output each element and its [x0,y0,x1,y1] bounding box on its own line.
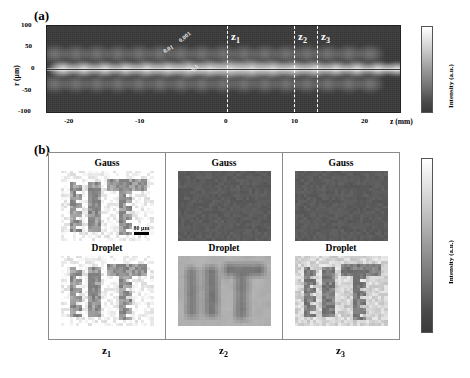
z1-gauss-image: 80 µm [61,171,154,241]
z2-gauss-image [178,171,271,241]
z1-droplet-caption: Droplet [92,242,123,254]
z1-droplet-image [61,256,154,326]
z2-droplet-caption: Droplet [209,242,240,254]
z1-marker-line [227,26,228,112]
z3-marker-line [317,26,318,112]
y-tick-4: -100 [18,107,31,115]
panel-a-colorbar-title: Intensity (a.u.) [447,64,455,108]
panel-a-colorbar [421,26,433,113]
z1-bottom-sub: 1 [107,350,111,359]
panel-b-colorbar [421,158,433,333]
panel-b-column-z3: Gauss Droplet [283,153,399,339]
x-tick-1: -10 [135,117,144,125]
y-tick-0: 100 [21,21,32,29]
z1-gauss-caption: Gauss [95,157,120,169]
panel-a: (a) 100 50 0 -50 -100 r (µm) [0,0,470,140]
panel-b-column-z1: Gauss 80 µm Droplet [49,153,166,339]
panel-b-z1-label: z1 [48,344,165,359]
z2-marker-line [294,26,295,112]
axis-center-line [47,69,400,70]
y-tick-2: 0 [31,64,35,72]
panel-a-label: (a) [34,8,49,24]
scale-bar-line [134,232,149,236]
z3-gauss-image [295,171,388,241]
panel-b-column-z2: Gauss Droplet [166,153,283,339]
z1-sub: 1 [236,36,240,45]
z2-droplet-image [178,256,271,326]
figure-root: (a) 100 50 0 -50 -100 r (µm) [0,0,470,378]
z2-marker-label: z2 [298,30,307,45]
z3-droplet-image [295,256,388,326]
z3-droplet-caption: Droplet [326,242,357,254]
panel-a-heatmap: 0.001 0.01 0.1 z1 z2 z3 [46,25,401,113]
z3-bottom-sub: 3 [341,350,345,359]
scale-bar-label: 80 µm [134,225,150,231]
z3-gauss-caption: Gauss [329,157,354,169]
panel-a-x-axis-title: z (mm) [390,117,413,126]
x-tick-4: 20 [361,117,368,125]
x-tick-3: 10 [291,117,298,125]
z2-gauss-caption: Gauss [212,157,237,169]
z2-sub: 2 [303,36,307,45]
z1-marker-label: z1 [231,30,240,45]
x-tick-0: -20 [64,117,73,125]
panel-b-image-grid: Gauss 80 µm Droplet Gauss [48,152,400,340]
scale-bar: 80 µm [134,225,150,236]
side-lobe [357,75,383,92]
panel-a-y-axis-title: r (µm) [12,65,21,86]
z2-bottom-sub: 2 [224,350,228,359]
panel-b-z3-label: z3 [282,344,399,359]
panel-b-colorbar-title: Intensity (a.u.) [447,240,455,284]
panel-b-z2-label: z2 [165,344,282,359]
z3-marker-label: z3 [321,30,330,45]
x-tick-2: 0 [224,117,228,125]
z3-sub: 3 [326,36,330,45]
y-tick-3: -50 [22,86,31,94]
panel-b: (b) Gauss 80 µm Droplet Gaus [0,136,470,378]
y-tick-1: 50 [25,42,32,50]
